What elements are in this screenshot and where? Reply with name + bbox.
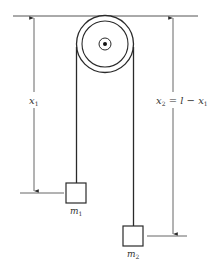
- label-x1: x1: [29, 95, 38, 107]
- atwood-machine-diagram: x1 x2 = l − x1 m1 m2: [0, 0, 224, 263]
- pulley-axle: [103, 42, 107, 46]
- dimension-x1: [20, 18, 64, 193]
- mass-m1: [66, 183, 86, 203]
- mass-m2: [123, 226, 143, 246]
- dimension-x2: [147, 18, 187, 236]
- pulley: [77, 16, 134, 73]
- label-x2-equation: x2 = l − x1: [156, 95, 208, 107]
- label-m2: m2: [127, 249, 140, 260]
- label-m1: m1: [70, 206, 82, 217]
